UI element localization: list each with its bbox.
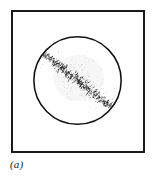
- scatter-plot-canvas: [13, 12, 143, 151]
- plot-frame: [11, 10, 145, 153]
- figure-caption: (a): [10, 158, 23, 170]
- figure-container: (a): [0, 0, 156, 179]
